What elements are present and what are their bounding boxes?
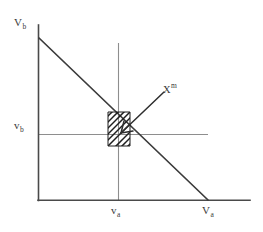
region-callout-sup: m [171, 81, 177, 90]
vertical-axis-max-sub: b [22, 22, 26, 31]
region-callout-label: Xm [163, 85, 177, 96]
region-callout-base: X [163, 84, 171, 95]
vertical-axis-max-label: Vb [14, 17, 26, 28]
hatched-region [100, 100, 158, 158]
horizontal-axis-max-base: V [202, 204, 210, 216]
vertical-axis-point-sub: b [20, 125, 24, 134]
horizontal-axis-point-base: v [111, 204, 117, 216]
vertical-axis-point-base: v [14, 119, 20, 131]
vertical-axis-max-base: V [14, 16, 22, 28]
horizontal-axis-point-label: va [111, 205, 120, 216]
hatch-fill [100, 100, 158, 158]
horizontal-axis-point-sub: a [117, 210, 121, 219]
figure-container: Vb vb va Va Xm [0, 0, 263, 232]
budget-line-diagram [0, 0, 263, 232]
vertical-axis-point-label: vb [14, 120, 24, 131]
horizontal-axis-max-sub: a [210, 210, 214, 219]
horizontal-axis-max-label: Va [202, 205, 214, 216]
